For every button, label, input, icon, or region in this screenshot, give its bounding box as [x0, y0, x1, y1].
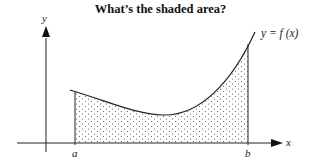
y-axis-arrow-icon: [42, 26, 50, 37]
y-axis-label: y: [41, 12, 47, 24]
x-axis-arrow-icon: [271, 139, 283, 147]
bound-b-label: b: [245, 147, 251, 159]
x-axis-label: x: [285, 136, 291, 148]
curve-label: y = f (x): [260, 27, 299, 40]
bound-a-label: a: [72, 147, 78, 159]
shaded-area: [75, 45, 248, 143]
area-diagram: y x y = f (x) a b: [0, 0, 321, 159]
